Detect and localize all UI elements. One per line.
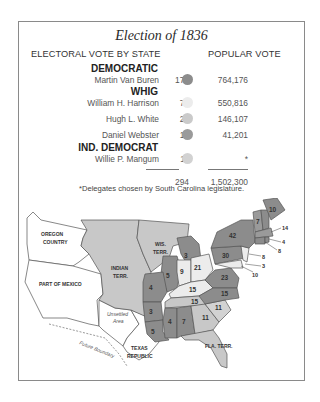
svg-text:3: 3 xyxy=(184,252,188,259)
svg-text:4: 4 xyxy=(168,318,172,325)
svg-text:15: 15 xyxy=(191,298,199,305)
svg-text:FLA. TERR.: FLA. TERR. xyxy=(205,343,233,349)
svg-text:COUNTRY: COUNTRY xyxy=(43,239,68,245)
svg-text:14: 14 xyxy=(282,225,289,231)
state-missouri xyxy=(143,272,167,302)
candidate-name: Hugh L. White xyxy=(19,114,159,124)
svg-text:21: 21 xyxy=(194,264,202,271)
svg-text:7: 7 xyxy=(182,318,186,325)
svg-text:8: 8 xyxy=(278,248,281,254)
svg-text:11: 11 xyxy=(215,304,222,311)
electoral-total-rule xyxy=(146,169,179,170)
party-ind-democrat: IND. DEMOCRAT xyxy=(78,142,158,153)
svg-text:3: 3 xyxy=(262,263,265,269)
us-map: OREGON COUNTRY PART OF MEXICO INDIAN TER… xyxy=(19,198,306,382)
svg-text:Area: Area xyxy=(112,318,124,324)
svg-text:TEXAS: TEXAS xyxy=(131,345,148,351)
page-title: Election of 1836 xyxy=(19,28,304,44)
candidate-name: Daniel Webster xyxy=(19,130,159,140)
mexico-region xyxy=(25,260,103,326)
florida-territory-region xyxy=(181,330,227,368)
state-new-jersey xyxy=(241,246,249,262)
svg-text:23: 23 xyxy=(221,274,229,281)
svg-text:INDIAN: INDIAN xyxy=(111,265,129,271)
svg-text:REPUBLIC: REPUBLIC xyxy=(127,353,153,359)
svg-text:9: 9 xyxy=(180,268,184,275)
svg-text:42: 42 xyxy=(229,232,237,239)
svg-text:Future Boundary: Future Boundary xyxy=(79,339,116,359)
svg-text:10: 10 xyxy=(252,272,258,278)
popular-count: 41,201 xyxy=(188,130,248,140)
svg-text:15: 15 xyxy=(221,290,229,297)
svg-text:7: 7 xyxy=(256,218,260,225)
svg-text:10: 10 xyxy=(269,206,277,213)
party-whig: WHIG xyxy=(131,86,158,97)
svg-text:3: 3 xyxy=(149,308,153,315)
svg-text:OREGON: OREGON xyxy=(41,231,64,237)
svg-text:PART OF MEXICO: PART OF MEXICO xyxy=(39,281,82,287)
popular-count: 764,176 xyxy=(188,75,248,85)
svg-text:TERR.: TERR. xyxy=(153,249,169,255)
popular-vote-header: POPULAR VOTE xyxy=(208,49,281,59)
popular-total-rule xyxy=(208,169,248,170)
svg-text:4: 4 xyxy=(282,239,286,245)
svg-text:8: 8 xyxy=(262,254,265,260)
popular-count: 146,107 xyxy=(188,114,248,124)
state-connecticut xyxy=(255,237,265,244)
popular-count: * xyxy=(188,154,248,164)
svg-text:11: 11 xyxy=(202,314,209,321)
svg-text:TERR.: TERR. xyxy=(113,273,129,279)
svg-text:15: 15 xyxy=(189,286,197,293)
svg-text:5: 5 xyxy=(166,272,170,279)
party-democratic: DEMOCRATIC xyxy=(91,63,158,74)
footnote: *Delegates chosen by South Carolina legi… xyxy=(19,184,304,193)
svg-text:Unsettled: Unsettled xyxy=(107,311,128,317)
candidate-name: William H. Harrison xyxy=(19,98,159,108)
candidate-name: Willie P. Mangum xyxy=(19,154,159,164)
svg-text:WIS.: WIS. xyxy=(155,241,166,247)
candidate-name: Martin Van Buren xyxy=(19,75,159,85)
election-panel: Election of 1836 ELECTORAL VOTE BY STATE… xyxy=(18,21,305,381)
state-arkansas xyxy=(143,302,163,322)
svg-text:30: 30 xyxy=(222,252,230,259)
popular-count: 550,816 xyxy=(188,98,248,108)
svg-text:5: 5 xyxy=(151,328,155,335)
electoral-vote-header: ELECTORAL VOTE BY STATE xyxy=(31,49,160,59)
svg-text:4: 4 xyxy=(149,284,153,291)
